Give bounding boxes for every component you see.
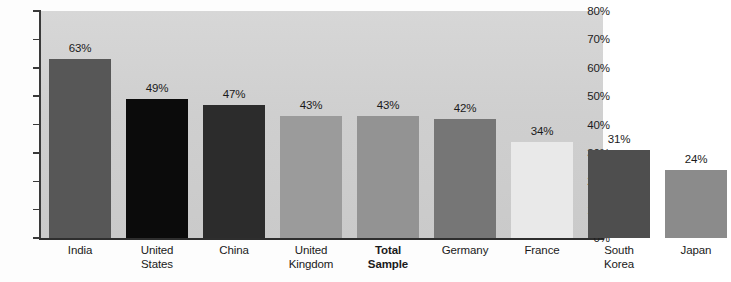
category-label-total-sample: TotalSample: [348, 244, 428, 271]
bar-india: [49, 59, 111, 238]
category-label-line: Sample: [348, 258, 428, 272]
category-label-china: China: [194, 244, 274, 258]
y-tick-label-70: 70%: [578, 33, 610, 45]
bar-japan: [665, 170, 727, 238]
bar-germany: [434, 119, 496, 238]
y-tick-label-50: 50%: [578, 90, 610, 102]
bar-total-sample: [357, 116, 419, 238]
y-tick-60: [33, 67, 40, 69]
bar-value-label: 34%: [511, 125, 573, 137]
category-label-line: China: [194, 244, 274, 258]
bar-value-label: 24%: [665, 153, 727, 165]
category-label-line: States: [117, 258, 197, 272]
category-label-united-kingdom: UnitedKingdom: [271, 244, 351, 271]
category-label-line: France: [502, 244, 582, 258]
category-label-line: Kingdom: [271, 258, 351, 272]
y-tick-50: [33, 95, 40, 97]
bar-value-label: 31%: [588, 133, 650, 145]
y-tick-20: [33, 181, 40, 183]
category-label-france: France: [502, 244, 582, 258]
category-label-united-states: UnitedStates: [117, 244, 197, 271]
category-label-line: Japan: [656, 244, 731, 258]
y-tick-80: [33, 10, 40, 12]
bar-united-kingdom: [280, 116, 342, 238]
bar-value-label: 49%: [126, 82, 188, 94]
category-label-line: Germany: [425, 244, 505, 258]
category-label-line: South: [579, 244, 659, 258]
bar-value-label: 43%: [357, 99, 419, 111]
bar-china: [203, 105, 265, 238]
category-label-line: United: [271, 244, 351, 258]
bar-value-label: 47%: [203, 88, 265, 100]
bar-south-korea: [588, 150, 650, 238]
y-tick-40: [33, 124, 40, 126]
category-label-line: United: [117, 244, 197, 258]
y-tick-label-60: 60%: [578, 62, 610, 74]
y-tick-label-80: 80%: [578, 5, 610, 17]
bar-value-label: 43%: [280, 99, 342, 111]
category-label-germany: Germany: [425, 244, 505, 258]
category-label-south-korea: SouthKorea: [579, 244, 659, 271]
y-tick-label-40: 40%: [578, 119, 610, 131]
y-tick-70: [33, 39, 40, 41]
category-label-line: Total: [348, 244, 428, 258]
y-tick-10: [33, 209, 40, 211]
bar-france: [511, 142, 573, 238]
bar-value-label: 63%: [49, 42, 111, 54]
category-label-india: India: [40, 244, 120, 258]
category-label-line: Korea: [579, 258, 659, 272]
y-tick-30: [33, 152, 40, 154]
category-label-line: India: [40, 244, 120, 258]
bar-value-label: 42%: [434, 102, 496, 114]
x-axis-line: [39, 238, 604, 240]
category-label-japan: Japan: [656, 244, 731, 258]
y-tick-0: [33, 237, 40, 239]
bar-united-states: [126, 99, 188, 238]
